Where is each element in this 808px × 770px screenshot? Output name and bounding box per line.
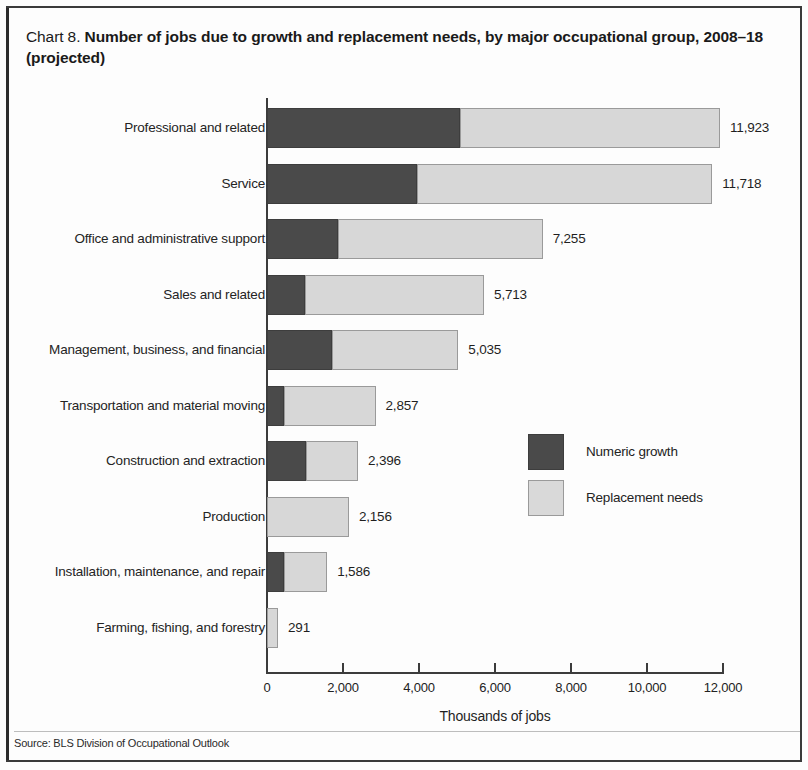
- chart-figure: Chart 8. Number of jobs due to growth an…: [0, 0, 808, 770]
- x-axis-tick-label: 4,000: [403, 680, 435, 695]
- bar-stack: [267, 441, 358, 481]
- bar-stack: [267, 330, 458, 370]
- bar-value-label: 5,035: [468, 342, 501, 357]
- category-label: Construction and extraction: [106, 453, 265, 468]
- bar-stack: [267, 164, 712, 204]
- source-note: Source: BLS Division of Occupational Out…: [14, 737, 229, 749]
- bar-stack: [267, 497, 349, 537]
- bar-value-label: 5,713: [494, 287, 527, 302]
- bar-segment-replacement: [284, 386, 375, 426]
- legend-swatch-growth-icon: [528, 434, 564, 470]
- x-axis-tick-label: 10,000: [628, 680, 667, 695]
- bar-value-label: 1,586: [337, 564, 370, 579]
- category-label: Office and administrative support: [74, 231, 265, 246]
- category-label: Transportation and material moving: [60, 398, 265, 413]
- bar-segment-growth: [267, 219, 338, 259]
- x-axis-tick-label: 8,000: [555, 680, 587, 695]
- bar-segment-replacement: [338, 219, 542, 259]
- bar-stack: [267, 552, 327, 592]
- bar-segment-growth: [267, 164, 417, 204]
- x-axis-tick-label: 2,000: [327, 680, 359, 695]
- bar-stack: [267, 608, 278, 648]
- bar-stack: [267, 275, 484, 315]
- category-label: Farming, fishing, and forestry: [96, 620, 265, 635]
- x-axis-tick: [266, 663, 268, 674]
- legend-label-replacement: Replacement needs: [586, 490, 703, 505]
- bar-segment-growth: [267, 386, 284, 426]
- bar-segment-replacement: [305, 275, 484, 315]
- bar-value-label: 291: [288, 620, 310, 635]
- plot-area: 02,0004,0006,0008,00010,00012,000 Profes…: [0, 0, 808, 770]
- x-axis-tick-label: 0: [263, 680, 270, 695]
- x-axis-tick: [494, 663, 496, 674]
- category-label: Installation, maintenance, and repair: [55, 564, 265, 579]
- bar-segment-growth: [267, 441, 306, 481]
- x-axis-tick: [722, 663, 724, 674]
- bar-value-label: 2,857: [386, 398, 419, 413]
- legend-swatch-replacement-icon: [528, 480, 564, 516]
- bar-value-label: 2,396: [368, 453, 401, 468]
- bar-segment-growth: [267, 108, 460, 148]
- x-axis-tick-label: 12,000: [704, 680, 743, 695]
- bar-stack: [267, 108, 720, 148]
- bar-value-label: 2,156: [359, 509, 392, 524]
- bar-value-label: 11,718: [722, 176, 761, 191]
- bar-segment-replacement: [284, 552, 327, 592]
- x-axis-tick: [418, 663, 420, 674]
- bar-segment-replacement: [306, 441, 358, 481]
- category-label: Professional and related: [124, 120, 265, 135]
- bar-stack: [267, 386, 376, 426]
- bar-segment-replacement: [417, 164, 712, 204]
- x-axis-tick: [646, 663, 648, 674]
- bar-segment-growth: [267, 330, 332, 370]
- bar-value-label: 11,923: [730, 120, 769, 135]
- bar-segment-growth: [267, 552, 284, 592]
- bar-stack: [267, 219, 543, 259]
- bar-segment-replacement: [460, 108, 720, 148]
- x-axis-tick: [570, 663, 572, 674]
- x-axis-tick: [342, 663, 344, 674]
- bar-segment-replacement: [267, 608, 278, 648]
- category-label: Production: [202, 509, 265, 524]
- category-label: Management, business, and financial: [49, 342, 265, 357]
- x-axis-title: Thousands of jobs: [267, 708, 723, 724]
- category-label: Sales and related: [163, 287, 265, 302]
- bar-segment-replacement: [267, 497, 349, 537]
- bar-segment-growth: [267, 275, 305, 315]
- bar-segment-replacement: [332, 330, 458, 370]
- x-axis-tick-label: 6,000: [479, 680, 511, 695]
- legend-label-growth: Numeric growth: [586, 444, 678, 459]
- bar-value-label: 7,255: [553, 231, 586, 246]
- category-label: Service: [221, 176, 265, 191]
- source-divider: [14, 731, 800, 732]
